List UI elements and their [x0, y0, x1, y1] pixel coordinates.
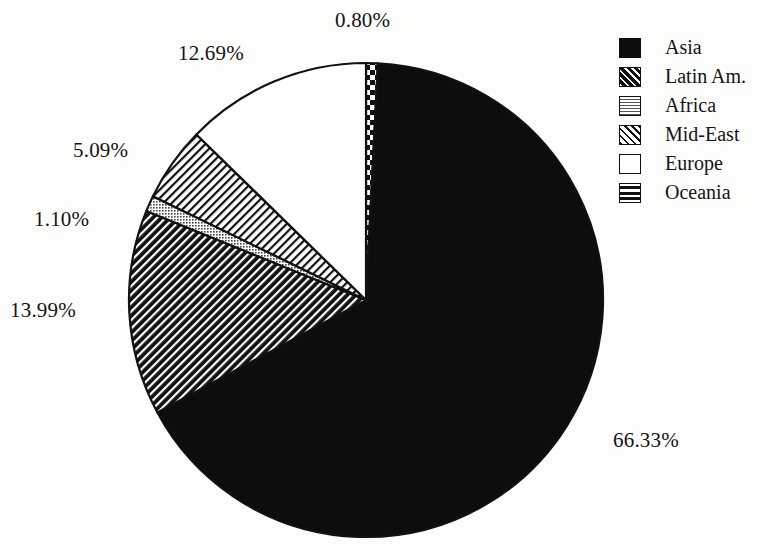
legend-item-latin-am: Latin Am.	[619, 62, 768, 91]
pie-slices	[129, 63, 603, 537]
legend-label-asia: Asia	[665, 36, 702, 59]
legend-label-africa: Africa	[665, 94, 716, 117]
legend-label-europe: Europe	[665, 152, 723, 175]
slice-value-label-mid-east: 5.09%	[73, 138, 128, 163]
legend-label-oceania: Oceania	[665, 181, 731, 204]
legend-item-africa: Africa	[619, 91, 768, 120]
slice-value-label-africa: 1.10%	[34, 207, 89, 232]
slice-value-label-europe: 12.69%	[178, 41, 244, 66]
legend-item-europe: Europe	[619, 149, 768, 178]
legend-swatch-icon-asia	[619, 38, 641, 58]
legend-item-oceania: Oceania	[619, 178, 768, 207]
pie-chart: 0.80% 66.33% 13.99% 1.10% 5.09% 12.69% A…	[0, 0, 768, 558]
legend-swatch-icon-mid-east	[619, 125, 641, 145]
chart-legend: Asia Latin Am. Africa Mid-East Europe Oc…	[619, 33, 768, 207]
slice-value-label-asia: 66.33%	[613, 428, 679, 453]
legend-label-mid-east: Mid-East	[665, 123, 739, 146]
slice-value-label-latin-am: 13.99%	[10, 298, 76, 323]
legend-item-asia: Asia	[619, 33, 768, 62]
legend-label-latin-am: Latin Am.	[665, 65, 746, 88]
legend-item-mid-east: Mid-East	[619, 120, 768, 149]
legend-swatch-icon-oceania	[619, 183, 641, 203]
legend-swatch-icon-latin-am	[619, 67, 641, 87]
legend-swatch-icon-europe	[619, 154, 641, 174]
legend-swatch-icon-africa	[619, 96, 641, 116]
slice-value-label-oceania: 0.80%	[335, 8, 390, 33]
